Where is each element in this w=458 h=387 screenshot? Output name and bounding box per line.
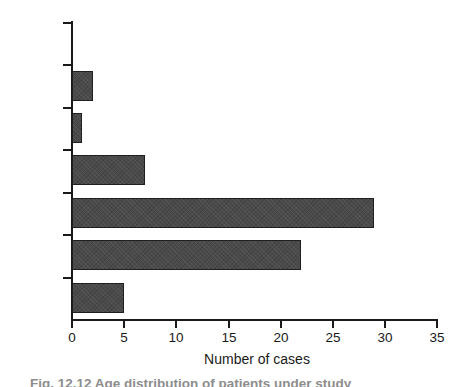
x-tick-mark: [228, 319, 230, 328]
x-tick-mark: [123, 319, 125, 328]
y-tick-mark: [63, 107, 73, 109]
plot-area: >50 41-50 31-40 21-30 11-20 2-10: [72, 22, 437, 319]
y-tick-mark: [63, 64, 73, 66]
bar-row: 11-20: [72, 192, 437, 234]
x-tick-mark: [384, 319, 386, 328]
x-tick-mark: [436, 319, 438, 328]
bar: [72, 198, 374, 228]
x-tick-mark: [175, 319, 177, 328]
x-tick-label: 15: [221, 330, 236, 345]
bar: [72, 240, 301, 270]
bar-row: 21-30: [72, 149, 437, 191]
bar-row: 41-50: [72, 64, 437, 106]
x-tick-label: 35: [429, 330, 444, 345]
bar: [72, 283, 124, 313]
x-tick-mark: [280, 319, 282, 328]
bar: [72, 155, 145, 185]
x-tick-mark: [332, 319, 334, 328]
x-tick-label: 0: [68, 330, 76, 345]
x-tick-label: 10: [168, 330, 183, 345]
bar: [72, 113, 82, 143]
x-axis-title-text: Number of cases: [148, 351, 310, 367]
figure-container: >50 41-50 31-40 21-30 11-20 2-10: [0, 0, 458, 387]
bar: [72, 71, 93, 101]
x-tick-label: 25: [325, 330, 340, 345]
bar-row: 2-10: [72, 234, 437, 276]
x-tick-label: 30: [377, 330, 392, 345]
figure-caption: Fig. 12.12 Age distribution of patients …: [30, 376, 450, 387]
x-tick-label: 20: [273, 330, 288, 345]
y-tick-mark: [63, 192, 73, 194]
bar-row: 0-1: [72, 277, 437, 319]
x-axis-title: Number of cases: [0, 351, 458, 367]
x-axis-line: [71, 319, 438, 321]
bar-row: 31-40: [72, 107, 437, 149]
y-tick-mark: [63, 277, 73, 279]
y-tick-mark: [63, 234, 73, 236]
bar-row: >50: [72, 22, 437, 64]
x-tick-label: 5: [120, 330, 128, 345]
y-tick-mark: [63, 149, 73, 151]
x-tick-mark: [71, 319, 73, 328]
y-tick-mark: [63, 22, 73, 24]
